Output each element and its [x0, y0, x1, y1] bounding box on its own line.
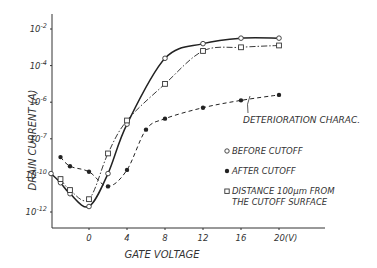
x-tick-label: 8: [162, 233, 168, 243]
x-tick-label: 4: [124, 233, 129, 243]
data-point-open-circle: [239, 36, 244, 41]
drain-current-chart: 10-210-410-610-710-1010-12048121620(V) D…: [0, 0, 377, 268]
legend-open-circle-icon: [225, 149, 229, 153]
legend-distance-line2: THE CUTOFF SURFACE: [232, 197, 328, 207]
x-axis-label: GATE VOLTAGE: [124, 249, 200, 260]
data-point-open-circle: [201, 41, 206, 46]
data-point-filled-circle: [144, 127, 148, 131]
legend-filled-circle-icon: [225, 169, 229, 173]
data-point-open-circle: [277, 36, 282, 41]
data-point-filled-circle: [68, 164, 72, 168]
data-point-filled-circle: [106, 184, 110, 188]
data-point-square: [58, 177, 63, 182]
data-point-square: [163, 82, 168, 87]
legend-square-icon: [225, 189, 229, 193]
data-point-square: [201, 49, 206, 54]
y-tick-label: 10-2: [30, 22, 47, 34]
annotation-deterioration: DETERIORATION CHARAC.: [243, 115, 360, 125]
legend-before: BEFORE CUTOFF: [232, 146, 303, 156]
data-point-filled-circle: [87, 170, 91, 174]
data-point-filled-circle: [125, 168, 129, 172]
y-axis-label: DRAIN CURRENT (A): [27, 89, 38, 190]
data-point-square: [87, 197, 92, 202]
x-tick-label: 20(V): [274, 233, 297, 243]
annotation-leader: [247, 96, 250, 113]
x-tick-label: 0: [86, 233, 91, 243]
x-tick-label: 16: [236, 233, 247, 243]
data-point-open-circle: [106, 171, 111, 176]
legend-distance-line1: DISTANCE 100μm FROM: [232, 186, 335, 196]
data-point-square: [125, 118, 130, 123]
data-point-filled-circle: [58, 155, 62, 159]
y-tick-label: 10-12: [26, 205, 47, 217]
legend: BEFORE CUTOFF AFTER CUTOFF DISTANCE 100μ…: [225, 146, 335, 207]
data-point-open-circle: [87, 204, 92, 209]
y-tick-label: 10-4: [30, 59, 47, 71]
data-point-filled-circle: [163, 116, 167, 120]
x-tick-label: 12: [198, 233, 209, 243]
data-point-open-circle: [49, 171, 54, 176]
data-point-square: [68, 188, 73, 193]
data-point-filled-circle: [277, 93, 281, 97]
data-point-filled-circle: [239, 98, 243, 102]
data-point-square: [106, 151, 111, 156]
data-point-square: [239, 45, 244, 50]
legend-after: AFTER CUTOFF: [231, 166, 296, 176]
data-point-filled-circle: [201, 105, 205, 109]
data-point-square: [277, 43, 282, 48]
axes: 10-210-410-610-710-1010-12048121620(V): [26, 14, 325, 243]
data-point-open-circle: [163, 56, 168, 61]
